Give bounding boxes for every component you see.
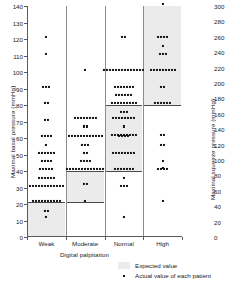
data-point [45,36,47,38]
data-point [86,125,88,127]
x-tick [105,237,106,240]
data-point [77,117,79,119]
data-point [117,86,119,88]
data-point [95,135,97,137]
data-point [89,160,91,162]
data-point [92,117,94,119]
data-point [126,185,128,187]
category-separator-1 [66,6,67,237]
data-point [135,102,137,104]
data-point [83,183,85,185]
data-point [53,185,55,187]
data-point [115,117,117,119]
y-tick-label-left: 30 [16,184,23,191]
data-point [41,160,43,162]
data-point [162,200,164,202]
data-point [163,102,165,104]
data-point [124,94,126,96]
data-point [47,200,49,202]
data-point [162,53,164,55]
data-point [32,185,34,187]
data-point [47,185,49,187]
data-point [80,135,82,137]
data-point [133,117,135,119]
expected-band-normal [106,105,143,171]
data-point [160,134,162,136]
data-point [114,102,116,104]
data-point [44,200,46,202]
data-point [166,168,168,170]
data-point [80,117,82,119]
data-point [124,69,126,71]
data-point [150,69,152,71]
data-point [117,102,119,104]
y-tick-label-left: 20 [16,201,23,208]
data-point [111,102,113,104]
data-point [160,144,162,146]
data-point [53,152,55,154]
y-tick-label-left: 50 [16,151,23,158]
data-point [163,144,165,146]
data-point [44,177,46,179]
data-point [90,168,92,170]
data-point [41,152,43,154]
expected-band-weak [28,202,65,237]
data-point [44,160,46,162]
band-upper-line-normal [106,105,143,106]
data-point [133,69,135,71]
data-point [38,177,40,179]
data-point [80,160,82,162]
data-point [86,135,88,137]
data-point [112,152,114,154]
data-point [121,69,123,71]
data-point [126,168,128,170]
data-point [71,135,73,137]
y-tick-label-right: 200 [214,80,224,87]
data-point [86,183,88,185]
data-point [127,135,129,137]
data-point [102,168,104,170]
x-tick [66,237,67,240]
band-lower-line-moderate [67,202,104,203]
data-point [124,36,126,38]
data-point [45,53,47,55]
band-lower-line-normal [106,171,143,172]
data-point [121,152,123,154]
data-point [81,168,83,170]
data-point [47,152,49,154]
data-point [50,160,52,162]
data-point [129,86,131,88]
data-point [130,152,132,154]
data-point [159,69,161,71]
data-point [38,152,40,154]
data-point [157,36,159,38]
y-tick-label-right: 100 [214,157,224,164]
data-point [48,86,50,88]
x-tick-label-high: High [156,240,169,247]
data-point [165,53,167,55]
y-tick-label-left: 90 [16,85,23,92]
data-point [103,69,105,71]
y-tick-label-right: 140 [214,126,224,133]
y-tick-label-left: 40 [16,168,23,175]
data-point [95,117,97,119]
x-tick-label-moderate: Moderate [72,240,98,247]
band-swatch-icon [118,262,130,269]
data-point [120,185,122,187]
data-point [120,111,122,113]
data-point [171,69,173,71]
data-point [83,135,85,137]
data-point [99,168,101,170]
data-point [120,168,122,170]
data-point [83,160,85,162]
data-point [169,102,171,104]
data-point [132,102,134,104]
data-point [163,134,165,136]
data-point [132,134,134,136]
y-tick-label-left: 80 [16,102,23,109]
data-point [163,86,165,88]
data-point [39,168,41,170]
data-point [129,168,131,170]
data-point [35,185,37,187]
data-point [120,86,122,88]
